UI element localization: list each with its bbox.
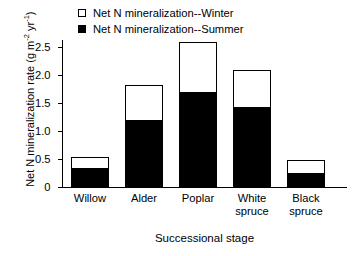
x-tick-label-line: Black [271,192,341,205]
y-tick-label: 1.5 [35,97,51,108]
bar-segment-winter [233,70,271,106]
bar-segment-summer [71,168,109,187]
bar-segment-summer [287,173,325,187]
y-axis-label-sup2: -1 [22,15,31,22]
bar-segment-winter [287,160,325,172]
y-tick-label: 2.5 [35,42,51,53]
bar-segment-summer [179,92,217,186]
open-square-icon [78,9,86,17]
y-axis-label-prefix: Net N mineralization rate (g m [24,41,36,187]
bar-group [71,157,109,187]
y-axis-label-sup1: -2 [22,34,31,41]
legend-label-winter: Net N mineralization--Winter [93,8,234,19]
x-axis-label: Successional stage [62,232,347,244]
bar-segment-summer [233,107,271,187]
y-tick-label: 0 [44,181,50,192]
chart-figure: Net N mineralization--Winter Net N miner… [0,0,361,256]
bar-segment-winter [71,157,109,168]
chart-legend: Net N mineralization--Winter Net N miner… [78,6,243,36]
x-axis-line [62,187,347,188]
x-axis-tick-labels: WillowAlderPoplarWhitespruceBlackspruce [62,192,347,226]
y-tick-label: 0.5 [35,153,51,164]
bar-segment-winter [179,42,217,92]
bar-group [179,42,217,187]
bar-group [233,70,271,186]
y-axis-label: Net N mineralization rate (g m-2 yr-1) [22,17,36,187]
filled-square-icon [78,25,86,33]
bar-segment-winter [125,85,163,120]
plot-area: 00.51.01.52.02.5 [62,40,347,188]
y-tick-0: 0 [58,187,63,188]
legend-label-summer: Net N mineralization--Summer [93,24,243,35]
legend-item-summer: Net N mineralization--Summer [78,22,243,36]
x-tick-label-line: spruce [271,205,341,218]
bar-group [287,160,325,186]
legend-item-winter: Net N mineralization--Winter [78,6,243,20]
y-tick-label: 1.0 [35,125,51,136]
bar-series-container [62,40,347,187]
y-axis-label-suffix: ) [24,11,36,15]
y-axis-label-mid: yr [24,22,36,34]
y-tick-label: 2.0 [35,70,51,81]
bar-segment-summer [125,120,163,187]
bar-group [125,85,163,187]
x-tick-label: Blackspruce [271,192,341,217]
